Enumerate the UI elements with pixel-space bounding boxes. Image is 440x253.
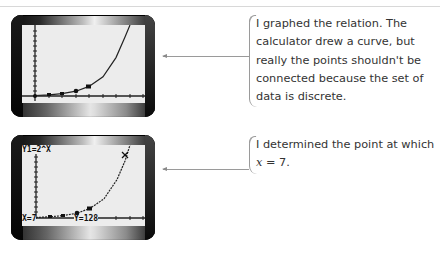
callout-note-1: I graphed the relation. The calculator d… (249, 15, 436, 107)
calculator-screen-frame-1 (11, 15, 155, 117)
callout-text-1: I graphed the relation. The calculator d… (256, 15, 436, 106)
callout-text-2: I determined the point at which x = 7. (256, 136, 436, 173)
frame-bezel-right (145, 135, 155, 240)
leader-arrow-2 (163, 169, 249, 170)
equation-label: Y1=2^X (22, 146, 51, 154)
leader-arrow-1 (163, 56, 249, 57)
callout-note-2: I determined the point at which x = 7. (249, 136, 436, 174)
callout-text-2-end: = 7. (262, 156, 289, 169)
cursor-y-readout: Y=128 (74, 215, 98, 223)
page-top-rule (0, 0, 440, 7)
calculator-graph-screen-2: Y1=2^X X=7 Y=128 (22, 145, 145, 226)
callout-text-2-start: I determined the point at which (256, 138, 434, 151)
cursor-x-readout: X=7 (22, 215, 36, 223)
frame-bezel-right (145, 15, 155, 117)
calculator-screen-frame-2: Y1=2^X X=7 Y=128 (11, 135, 155, 240)
calculator-graph-screen-1 (22, 25, 145, 103)
exponential-graph-1 (22, 25, 145, 103)
